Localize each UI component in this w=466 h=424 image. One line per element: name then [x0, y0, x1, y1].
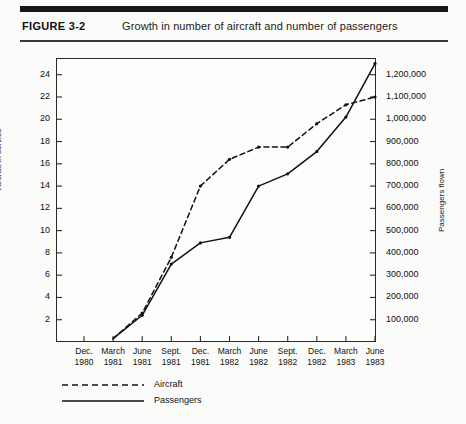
- y-axis-right-tick-label: 700,000: [386, 180, 419, 190]
- y-axis-left-tick-label: 8: [20, 247, 50, 257]
- y-axis-right-title: Passengers flown: [437, 169, 446, 232]
- y-axis-right-tick-label: 1,000,000: [386, 113, 426, 123]
- y-axis-right-tick-label: 1,200,000: [386, 69, 426, 79]
- y-axis-left-tick-label: 6: [20, 269, 50, 279]
- y-axis-right-tick-label: 300,000: [386, 269, 419, 279]
- plot-area: [56, 58, 376, 342]
- y-axis-left-tick-label: 16: [20, 158, 50, 168]
- header-bottom-rule: [20, 40, 448, 42]
- y-axis-left-tick-label: 12: [20, 202, 50, 212]
- y-axis-left-tick-label: 22: [20, 91, 50, 101]
- y-axis-left-tick-label: 14: [20, 180, 50, 190]
- y-axis-left-tick-label: 4: [20, 291, 50, 301]
- legend-label-passengers: Passengers: [154, 395, 202, 405]
- y-axis-right-tick-label: 900,000: [386, 136, 419, 146]
- y-axis-left-title: Aircraft in service: [0, 129, 3, 190]
- figure-number: FIGURE 3-2: [22, 20, 86, 32]
- y-axis-right-tick-label: 500,000: [386, 225, 419, 235]
- header-top-rule: [20, 6, 448, 12]
- y-axis-right-tick-label: 400,000: [386, 247, 419, 257]
- legend-label-aircraft: Aircraft: [154, 379, 183, 389]
- y-axis-right-tick-label: 600,000: [386, 202, 419, 212]
- y-axis-right-tick-label: 800,000: [386, 158, 419, 168]
- x-axis-tick-line: 1983: [352, 357, 398, 368]
- legend-swatch-aircraft: [60, 378, 146, 392]
- figure-root: FIGURE 3-2 Growth in number of aircraft …: [0, 0, 466, 424]
- y-axis-right-tick-label: 100,000: [386, 314, 419, 324]
- y-axis-left-tick-label: 24: [20, 69, 50, 79]
- y-axis-right-tick-label: 1,100,000: [386, 91, 426, 101]
- y-axis-left-tick-label: 10: [20, 225, 50, 235]
- figure-caption: Growth in number of aircraft and number …: [122, 20, 398, 32]
- legend-swatch-passengers: [60, 394, 146, 408]
- y-axis-left-tick-label: 18: [20, 136, 50, 146]
- y-axis-left-tick-label: 20: [20, 113, 50, 123]
- x-axis-tick-label: June1983: [352, 346, 398, 368]
- x-axis-tick-line: June: [352, 346, 398, 357]
- y-axis-right-tick-label: 200,000: [386, 291, 419, 301]
- y-axis-left-tick-label: 2: [20, 314, 50, 324]
